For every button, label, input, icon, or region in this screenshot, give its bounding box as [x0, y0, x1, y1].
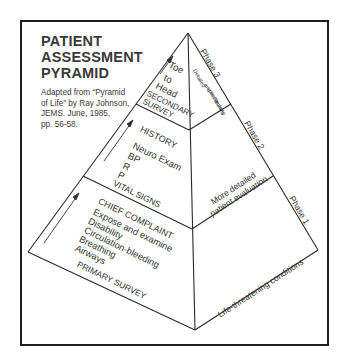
arrow-head-icon: [127, 120, 133, 127]
pyramid-base-left: [28, 252, 195, 330]
pyramid-center-edge: [188, 33, 195, 330]
arrow-primary: [44, 196, 77, 243]
pyramid-drawing: [0, 0, 344, 352]
arrow-head-icon: [73, 193, 79, 200]
